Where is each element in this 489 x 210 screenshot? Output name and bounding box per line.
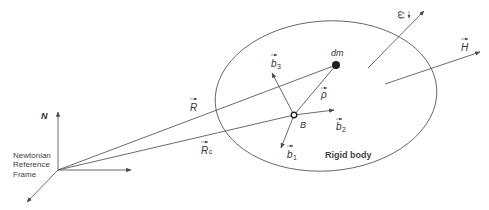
label-b: B [300, 120, 306, 130]
label-dm: dm [331, 48, 344, 58]
vector-b1 [281, 115, 294, 148]
vector-b2 [294, 110, 334, 115]
svg-text:b2: b2 [336, 121, 346, 133]
vector-omega [368, 11, 424, 68]
label-r: R [190, 99, 197, 113]
rigid-body-label: Rigid body [325, 150, 372, 160]
label-b2: b2 [336, 119, 346, 133]
diagram-canvas: N Newtonian Reference Frame R Rc ρ b1 b2… [0, 0, 489, 210]
vector-b3 [272, 73, 294, 115]
svg-text:b3: b3 [271, 58, 281, 70]
svg-text:H: H [461, 42, 469, 53]
svg-text:b1: b1 [287, 149, 297, 161]
vector-rc [58, 115, 294, 170]
point-b [291, 112, 297, 118]
svg-text:R: R [190, 102, 197, 113]
svg-text:Rc: Rc [201, 145, 213, 156]
label-rho: ρ [320, 88, 327, 100]
label-b3: b3 [271, 55, 281, 70]
label-rc: Rc [201, 142, 213, 156]
frame-axis-label: N [41, 111, 48, 121]
frame-label-line-2: Reference [13, 160, 50, 169]
label-h: H [461, 39, 469, 53]
label-omega: ω [396, 11, 409, 19]
svg-text:ρ: ρ [320, 89, 327, 100]
rigid-body-diagram: N Newtonian Reference Frame R Rc ρ b1 b2… [0, 0, 489, 210]
frame-label-line-3: Frame [13, 170, 37, 179]
label-b1: b1 [287, 146, 297, 161]
vector-h [385, 52, 480, 84]
point-dm [332, 61, 340, 69]
frame-label-line-1: Newtonian [13, 151, 51, 160]
svg-text:ω: ω [396, 11, 407, 19]
